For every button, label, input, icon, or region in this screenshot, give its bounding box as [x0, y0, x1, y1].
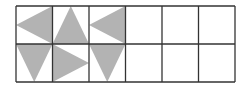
triangle-down-shape [89, 44, 126, 82]
triangle-down-shape [16, 44, 53, 82]
triangle-grid-diagram [0, 0, 248, 87]
triangle-left-shape [89, 6, 126, 44]
triangle-left-shape [16, 6, 53, 44]
triangle-right-shape [53, 44, 90, 82]
triangle-up-shape [53, 6, 90, 44]
